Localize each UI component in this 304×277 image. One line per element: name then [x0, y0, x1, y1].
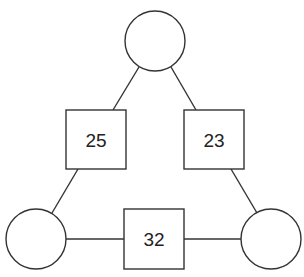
box-bottom-value: 32	[143, 229, 164, 250]
box-bottom: 32	[124, 209, 184, 269]
circle-top[interactable]	[125, 11, 185, 71]
circle-bottom-right[interactable]	[241, 209, 301, 269]
box-left: 25	[66, 110, 126, 169]
edge-right-bottomright	[231, 169, 257, 213]
box-right-value: 23	[203, 130, 224, 151]
box-left-value: 25	[85, 130, 106, 151]
edge-top-left	[113, 67, 139, 110]
circle-bottom-left[interactable]	[6, 209, 66, 269]
triangle-diagram: 25 23 32	[0, 0, 304, 277]
edge-top-right	[171, 67, 196, 110]
box-right: 23	[184, 110, 244, 169]
edge-left-bottomleft	[52, 169, 78, 213]
